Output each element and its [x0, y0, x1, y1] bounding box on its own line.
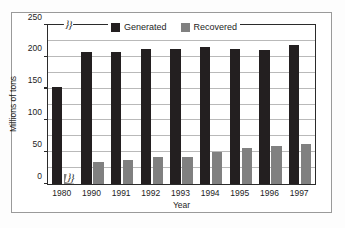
bar-generated-1992	[141, 49, 152, 184]
y-axis-tick-label: 150	[28, 76, 42, 85]
y-axis-tick	[44, 119, 48, 120]
bar-generated-1991	[111, 52, 122, 184]
bar-generated-1993	[170, 49, 181, 184]
bar-generated-1994	[200, 47, 211, 184]
bar-recovered-1996	[271, 146, 282, 184]
gridline	[48, 40, 315, 41]
bar-recovered-1997	[301, 144, 312, 184]
y-axis-tick	[44, 87, 48, 88]
bar-recovered-1992	[153, 157, 164, 184]
chart-figure: Millions of tons 050100150200250 Year Ge…	[0, 0, 345, 228]
bar-generated-1990	[81, 52, 92, 184]
y-axis-label: Millions of tons	[8, 76, 18, 132]
y-axis-tick-label: 0	[37, 171, 42, 180]
legend-item-recovered: Recovered	[181, 23, 238, 32]
y-axis-tick-label: 200	[28, 44, 42, 53]
y-axis-tick-label: 100	[28, 108, 42, 117]
bar-recovered-1995	[242, 148, 253, 184]
y-axis-tick-label: 50	[33, 139, 42, 148]
x-axis-tick-label: 1997	[279, 188, 319, 198]
x-axis-label: Year	[47, 200, 316, 210]
legend-item-generated: Generated	[111, 23, 167, 32]
legend-swatch-icon-generated	[111, 23, 120, 32]
chart-legend: Generated Recovered	[108, 22, 240, 33]
bar-generated-1996	[259, 50, 270, 184]
bar-generated-1980	[52, 87, 63, 184]
y-axis-tick-label: 250	[28, 12, 42, 21]
bar-recovered-1994	[212, 152, 223, 184]
y-axis-tick	[44, 56, 48, 57]
legend-label-generated: Generated	[124, 23, 167, 32]
y-axis-tick	[44, 24, 48, 25]
bar-generated-1995	[230, 49, 241, 184]
plot-area: 050100150200250	[47, 24, 316, 185]
legend-label-recovered: Recovered	[194, 23, 238, 32]
bar-recovered-1993	[182, 157, 193, 184]
bar-generated-1997	[289, 45, 300, 184]
legend-swatch-icon-recovered	[181, 23, 190, 32]
y-axis-tick	[44, 151, 48, 152]
bar-recovered-1991	[123, 160, 134, 184]
y-axis-tick	[44, 183, 48, 184]
bar-recovered-1990	[93, 162, 104, 184]
